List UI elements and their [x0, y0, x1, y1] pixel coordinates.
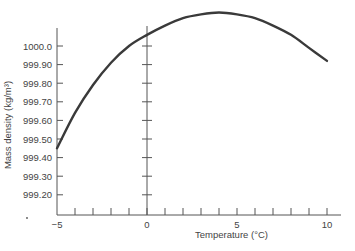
x-axis-title: Temperature (°C)	[195, 229, 268, 240]
y-axis: 1000.0999.90999.80999.70999.60999.50999.…	[23, 28, 63, 215]
x-tick-label: 10	[322, 219, 333, 230]
y-axis-title: Mass density (kg/m³)	[2, 81, 13, 169]
y-tick-label: 999.20	[23, 189, 52, 200]
density-curve	[57, 13, 327, 149]
y-tick-label: 999.60	[23, 115, 52, 126]
y-tick-label: 1000.0	[23, 41, 52, 52]
x-tick-label: −5	[52, 219, 63, 230]
x-tick-label: 0	[144, 219, 149, 230]
y-tick-label: 999.30	[23, 171, 52, 182]
y-tick-label: 999.70	[23, 96, 52, 107]
y-tick-label: 999.80	[23, 78, 52, 89]
y-tick-label: 999.40	[23, 152, 52, 163]
density-chart: 1000.0999.90999.80999.70999.60999.50999.…	[0, 0, 355, 251]
y-tick-label: 999.90	[23, 59, 52, 70]
zero-degree-axis	[142, 26, 152, 215]
y-tick-label: 999.50	[23, 134, 52, 145]
x-axis: −50510	[26, 208, 341, 230]
